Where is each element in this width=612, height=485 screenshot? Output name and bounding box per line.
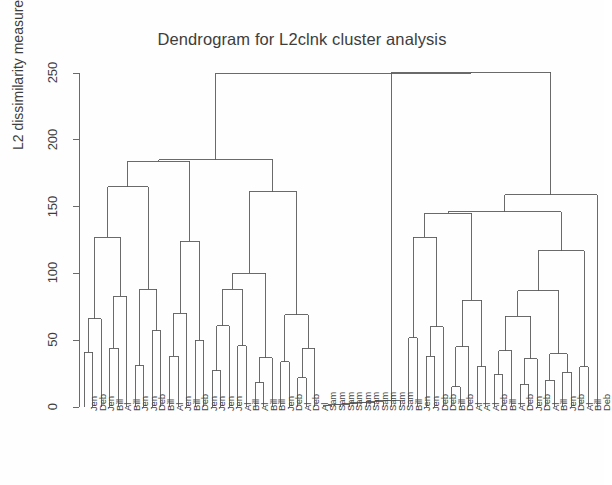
leaf-label: Deb	[601, 394, 612, 411]
